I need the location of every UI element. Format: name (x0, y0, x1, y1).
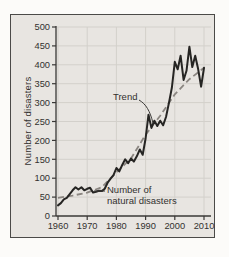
x-tick-label: 1960 (48, 221, 69, 231)
y-tick-label: 450 (34, 41, 50, 51)
x-tick-label: 2000 (164, 221, 185, 231)
y-tick-label: 250 (34, 117, 50, 127)
chart-panel: 0501001502002503003504004505001960197019… (10, 14, 215, 238)
y-tick-label: 100 (34, 173, 50, 183)
x-tick-label: 2010 (194, 221, 215, 231)
y-tick-label: 50 (40, 192, 50, 202)
y-tick-label: 350 (34, 79, 50, 89)
y-tick-label: 0 (45, 211, 50, 221)
series-label-line2: natural disasters (107, 195, 177, 206)
y-tick-label: 400 (34, 60, 50, 70)
y-axis-title: Number of disasters (22, 77, 33, 166)
series-label-line1: Number of (107, 184, 177, 195)
x-tick-label: 1980 (106, 221, 127, 231)
x-tick-label: 1970 (77, 221, 98, 231)
series-line-natural-disasters (58, 47, 204, 206)
x-tick-label: 1990 (135, 221, 156, 231)
y-tick-label: 150 (34, 155, 50, 165)
y-tick-label: 300 (34, 98, 50, 108)
series-label: Number of natural disasters (107, 184, 177, 206)
trend-label: Trend (113, 91, 137, 102)
y-tick-label: 200 (34, 136, 50, 146)
page-root: 0501001502002503003504004505001960197019… (0, 0, 229, 257)
y-tick-label: 500 (34, 22, 50, 32)
